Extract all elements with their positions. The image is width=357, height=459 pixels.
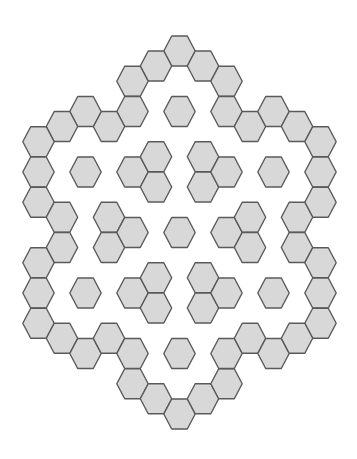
hexagon-pattern-diagram (0, 0, 357, 459)
